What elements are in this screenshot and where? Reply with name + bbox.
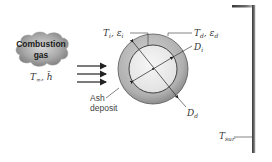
surroundings-wall — [232, 5, 256, 153]
svg-text:Ti, εi: Ti, εi — [103, 28, 124, 39]
center-point — [152, 68, 154, 70]
surroundings-temperature-label: Tsur — [219, 131, 252, 142]
inner-diameter-label: Di — [193, 42, 203, 53]
ash-label-line1: Ash — [90, 93, 105, 103]
deposit-surface-label: Td, εd — [168, 28, 218, 39]
svg-text:Td, εd: Td, εd — [194, 28, 218, 39]
cloud-label-line2: gas — [34, 50, 49, 60]
svg-text:Tsur: Tsur — [219, 131, 236, 142]
ash-deposit-label: Ash deposit — [90, 88, 119, 113]
tube-cross-section — [118, 34, 192, 107]
deposit-diameter-label: Dd — [186, 108, 198, 119]
svg-text:T∞, h̄: T∞, h̄ — [30, 71, 53, 83]
combustion-gas-cloud: Combustion gas — [16, 32, 68, 66]
gas-properties-label: T∞, h̄ — [30, 71, 53, 83]
deposit-diameter-leader — [178, 98, 186, 107]
wall-top — [232, 5, 255, 8]
ash-label-line2: deposit — [90, 103, 118, 113]
flow-arrows — [77, 66, 106, 82]
deposit-surface-leader — [168, 33, 192, 36]
cloud-label-line1: Combustion — [16, 39, 66, 49]
ash-deposit-leader — [106, 88, 119, 98]
convection-coefficient-symbol: h̄ — [47, 71, 53, 82]
wall-vertical — [252, 5, 256, 153]
heat-transfer-diagram: Combustion gas T∞, h̄ Ti, εi Td, — [0, 0, 272, 162]
